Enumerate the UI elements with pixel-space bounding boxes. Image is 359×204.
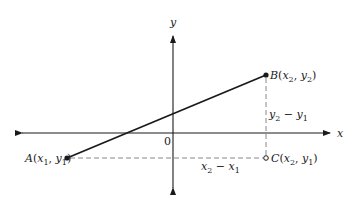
point-b (263, 72, 268, 77)
point-c-label: C(x2, y1) (271, 153, 318, 167)
vertical-difference-label: y2 − y1 (269, 109, 308, 123)
horizontal-difference-label: x2 − x1 (201, 161, 240, 175)
diagram-canvas: y x 0 B(x2, y2) y2 − y1 C(x2, y1) x2 − x… (0, 0, 359, 204)
point-a-label: A(x1, y1) (25, 153, 71, 167)
y-axis-label: y (170, 17, 176, 28)
point-b-label: B(x2, y2) (270, 70, 316, 84)
diagram-svg (0, 0, 359, 204)
point-c (264, 156, 269, 161)
origin-label: 0 (164, 136, 171, 147)
x-axis-label: x (337, 128, 343, 139)
